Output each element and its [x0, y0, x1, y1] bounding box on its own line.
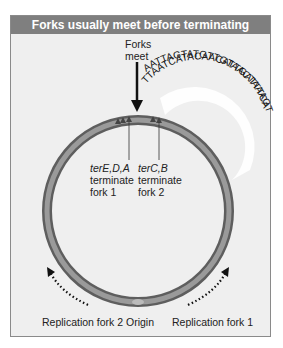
ter-label-fork1: terE,D,A terminate fork 1 — [90, 162, 134, 198]
fork2-arrowhead-icon — [47, 267, 55, 277]
forks-meet-label: Forks meet — [125, 38, 151, 62]
origin-marker — [132, 299, 144, 305]
arrowhead-icon — [131, 100, 143, 112]
fork1-label: Replication fork 1 — [172, 316, 253, 328]
origin-label: Origin — [126, 316, 154, 328]
ter-label-fork2: terC,B terminate fork 2 — [138, 162, 182, 198]
fork1-arrowhead-icon — [221, 267, 229, 277]
fork2-label: Replication fork 2 — [42, 316, 123, 328]
